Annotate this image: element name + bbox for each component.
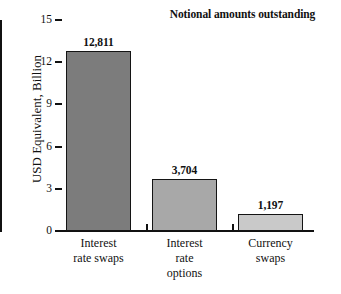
x-axis-category-label: Currencyswaps xyxy=(224,236,317,266)
category-label-line: Interest xyxy=(138,236,231,251)
y-axis-tick-label: 0 xyxy=(26,225,52,236)
chart-title: Notional amounts outstanding xyxy=(150,8,335,21)
bar xyxy=(66,51,131,231)
category-label-line: Interest xyxy=(52,236,145,251)
category-label-line: options xyxy=(138,266,231,281)
y-axis-tick-mark xyxy=(55,19,62,21)
y-axis-tick-label: 15 xyxy=(26,14,52,25)
y-axis-tick-mark xyxy=(55,146,62,148)
y-axis-tick-label: 12 xyxy=(26,56,52,67)
category-label-line: rate xyxy=(138,251,231,266)
bar-value-label: 3,704 xyxy=(142,164,227,176)
y-axis-tick-mark xyxy=(55,103,62,105)
bar-value-label: 1,197 xyxy=(228,199,313,211)
category-label-line: rate swaps xyxy=(52,251,145,266)
x-axis-category-label: Interestrateoptions xyxy=(138,236,231,281)
bar-value-label: 12,811 xyxy=(56,36,141,48)
y-axis-tick-mark xyxy=(55,230,62,232)
y-axis-tick-label: 9 xyxy=(26,98,52,109)
bar xyxy=(238,214,303,231)
bar-chart: Notional amounts outstanding USD Equival… xyxy=(0,0,341,294)
category-label-line: Currency xyxy=(224,236,317,251)
x-axis-tick-mark xyxy=(232,224,234,231)
y-axis-tick-label: 6 xyxy=(26,141,52,152)
bar xyxy=(152,179,217,231)
y-axis-tick-mark xyxy=(55,61,62,63)
y-axis-tick-mark xyxy=(55,188,62,190)
y-axis-line xyxy=(0,20,2,232)
y-axis-tick-label: 3 xyxy=(26,183,52,194)
x-axis-category-label: Interestrate swaps xyxy=(52,236,145,266)
category-label-line: swaps xyxy=(224,251,317,266)
x-axis-tick-mark xyxy=(146,224,148,231)
